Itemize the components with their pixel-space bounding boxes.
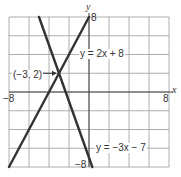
line1-equation-label: y = 2x + 8 — [79, 49, 125, 59]
intersection-label: (−3, 2) — [12, 70, 43, 80]
y-axis-label: y — [86, 2, 90, 12]
intersection-arrow — [43, 71, 57, 76]
x-max-tick-label: 8 — [163, 94, 169, 104]
x-min-tick-label: −8 — [3, 94, 14, 104]
coordinate-plane — [0, 0, 181, 177]
x-axis-label: x — [172, 85, 176, 95]
line2-equation-label: y = −3x − 7 — [95, 143, 147, 153]
y-max-tick-label: 8 — [91, 13, 97, 23]
y-min-tick-label: −8 — [75, 160, 86, 170]
